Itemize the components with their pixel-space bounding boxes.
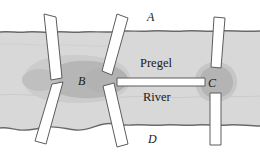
label-landmass-c: C [208, 77, 216, 89]
bridge-c-to-d[interactable] [210, 93, 221, 145]
label-land-north-a: A [147, 11, 154, 23]
label-land-south-d: D [148, 133, 157, 145]
label-island-b: B [78, 75, 85, 87]
diagram-canvas [0, 0, 260, 158]
bridge-b-to-c-center[interactable] [117, 78, 205, 86]
label-river-pregel: Pregel [140, 57, 172, 70]
konigsberg-bridge-diagram: A B C D Pregel River [0, 0, 260, 158]
label-river-word: River [143, 91, 171, 104]
